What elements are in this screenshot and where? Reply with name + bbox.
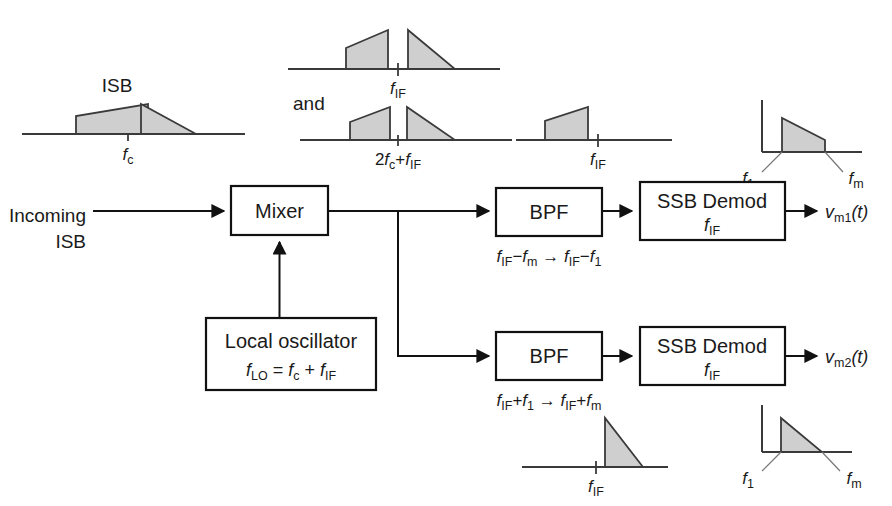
ssb-demod-bottom-label: SSB Demod [657, 335, 767, 357]
output-top-label: vm1(t) [825, 202, 868, 225]
spectrum-baseband-bottom: f1 fm [742, 405, 861, 491]
mixer-to-bpf-bottom-line [398, 211, 489, 356]
isb-spectrum-label: ISB [102, 75, 133, 96]
baseband-top-high-label: fm [848, 169, 863, 191]
usb-if-tick-label: fIF [588, 477, 604, 499]
if-pair-tick-label: fIF [390, 79, 406, 101]
diagram-canvas: ISB fc fIF and 2fc+fIF fIF [0, 0, 892, 506]
block-diagram-svg: ISB fc fIF and 2fc+fIF fIF [0, 0, 892, 506]
spectrum-usb-if: fIF [522, 418, 668, 499]
local-oscillator-label: Local oscillator [225, 330, 358, 352]
bpf-top-range-label: fIF−fm → fIF−f1 [497, 247, 602, 269]
incoming-label-line1: Incoming [9, 205, 86, 226]
and-label: and [293, 93, 325, 114]
bpf-bottom-range-label: fIF+f1 → fIF+fm [497, 391, 602, 413]
sum-pair-tick-label: 2fc+fIF [375, 150, 422, 172]
bpf-top-label: BPF [530, 201, 569, 223]
spectrum-sum-pair: 2fc+fIF [300, 107, 512, 172]
baseband-bottom-low-label: f1 [742, 469, 754, 491]
mixer-label: Mixer [255, 200, 304, 222]
ssb-demod-top-label: SSB Demod [657, 190, 767, 212]
lsb-if-tick-label: fIF [590, 150, 606, 172]
spectrum-baseband-top: f1 fm [742, 100, 863, 191]
baseband-bottom-high-label: fm [846, 469, 861, 491]
output-bottom-label: vm2(t) [825, 347, 868, 370]
isb-tick-label: fc [123, 145, 134, 167]
bpf-bottom-label: BPF [530, 345, 569, 367]
spectrum-if-pair: fIF [288, 30, 500, 101]
spectrum-lsb-if: fIF [516, 107, 672, 172]
spectrum-isb-input: ISB fc [22, 75, 245, 167]
incoming-label-line2: ISB [55, 231, 86, 252]
